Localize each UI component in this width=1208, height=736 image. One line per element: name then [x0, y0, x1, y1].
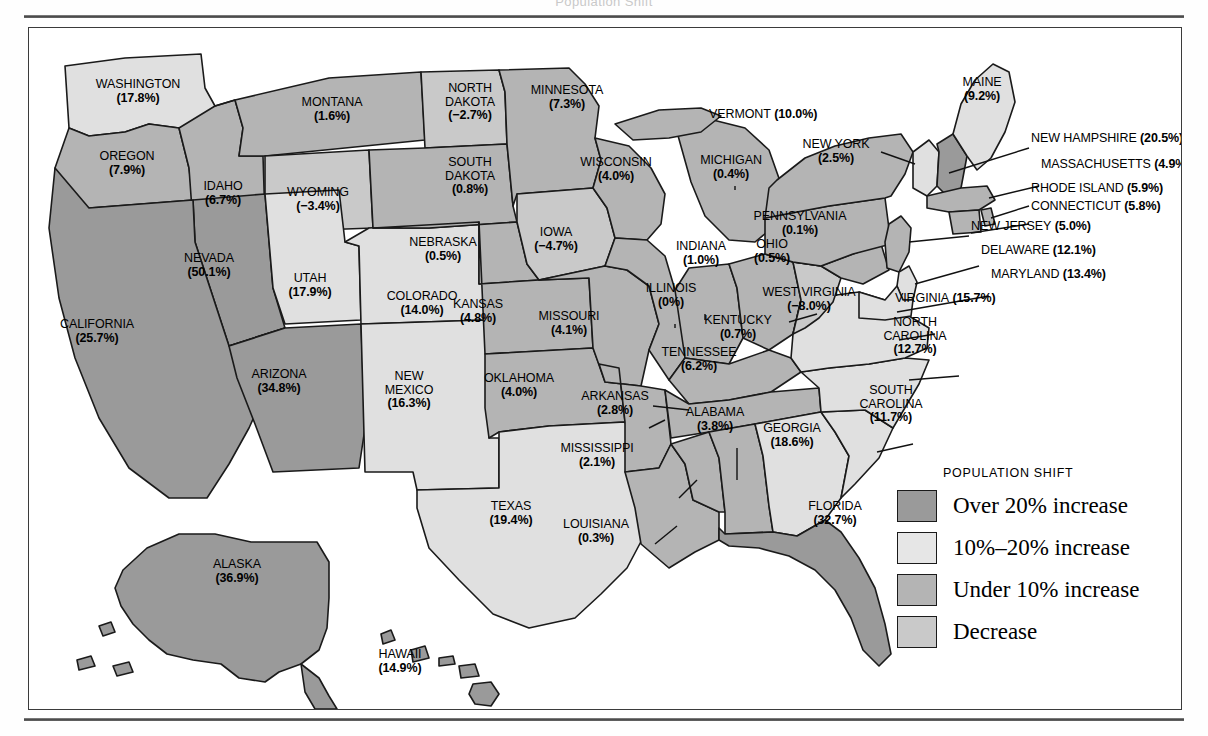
label-montana: MONTANA(1.6%) — [277, 96, 387, 123]
map-legend: POPULATION SHIFT Over 20% increase 10%–2… — [897, 466, 1139, 648]
label-alaska: ALASKA(36.9%) — [189, 558, 285, 585]
bottom-rule — [24, 718, 1184, 721]
label-louisiana: LOUISIANA(0.3%) — [541, 518, 651, 545]
legend-swatch-over20 — [897, 490, 937, 522]
legend-row-under10: Under 10% increase — [897, 574, 1139, 606]
label-florida: FLORIDA(32.7%) — [785, 500, 885, 527]
leader-new-jersey — [909, 236, 969, 242]
label-kansas: KANSAS(4.8%) — [429, 298, 527, 325]
label-arkansas: ARKANSAS(2.8%) — [559, 390, 671, 417]
legend-row-mid: 10%–20% increase — [897, 532, 1139, 564]
state-florida — [719, 520, 891, 666]
state-massachusetts — [927, 186, 995, 212]
leader-delaware — [915, 266, 979, 284]
clipped-figure-title: Population Shift — [0, 0, 1208, 10]
label-wyoming: WYOMING(−3.4%) — [259, 186, 377, 213]
label-washington: WASHINGTON(17.8%) — [73, 78, 203, 105]
legend-label-mid: 10%–20% increase — [953, 535, 1130, 561]
label-west-virginia: WEST VIRGINIA(−8.0%) — [745, 286, 873, 313]
label-wisconsin: WISCONSIN(4.0%) — [569, 156, 663, 183]
legend-label-over20: Over 20% increase — [953, 493, 1128, 519]
label-rhode-island: RHODE ISLAND (5.9%) — [1031, 182, 1163, 196]
top-rule — [24, 15, 1184, 18]
label-kentucky: KENTUCKY(0.7%) — [687, 314, 789, 341]
label-north-dakota: NORTH DAKOTA (−2.7%) — [427, 82, 513, 123]
figure-page: Population Shift .st{stroke:#1a1a1a;stro… — [0, 0, 1208, 736]
hawaii-kauai — [381, 630, 395, 644]
label-missouri: MISSOURI(4.1%) — [519, 310, 619, 337]
label-utah: UTAH(17.9%) — [271, 272, 349, 299]
label-delaware: DELAWARE (12.1%) — [981, 244, 1096, 258]
label-pennsylvania: PENNSYLVANIA(0.1%) — [735, 210, 865, 237]
state-arizona — [229, 324, 365, 472]
label-virginia: VIRGINIA (15.7%) — [895, 292, 996, 306]
legend-swatch-mid — [897, 532, 937, 564]
label-oregon: OREGON(7.9%) — [75, 150, 179, 177]
legend-swatch-decrease — [897, 616, 937, 648]
label-california: CALIFORNIA(25.7%) — [35, 318, 159, 345]
label-idaho: IDAHO(6.7%) — [185, 180, 261, 207]
map-frame: .st{stroke:#1a1a1a;stroke-width:1.6;stro… — [28, 27, 1182, 710]
label-new-jersey: NEW JERSEY (5.0%) — [971, 220, 1091, 234]
label-iowa: IOWA(−4.7%) — [515, 226, 597, 253]
legend-row-over20: Over 20% increase — [897, 490, 1139, 522]
alaska-panhandle — [301, 664, 337, 709]
hawaii-maui — [459, 664, 479, 678]
label-maine: MAINE(9.2%) — [941, 76, 1023, 103]
label-new-york: NEW YORK(2.5%) — [781, 138, 891, 165]
label-georgia: GEORGIA(18.6%) — [739, 422, 845, 449]
label-minnesota: MINNESOTA(7.3%) — [517, 84, 617, 111]
label-nebraska: NEBRASKA(0.5%) — [389, 236, 497, 263]
label-illinois: ILLINOIS(0%) — [629, 282, 713, 309]
label-tennessee: TENNESSEE(6.2%) — [639, 346, 759, 373]
alaska-island-2 — [77, 656, 95, 670]
label-new-hampshire: NEW HAMPSHIRE (20.5%) — [1031, 132, 1182, 146]
label-connecticut: CONNECTICUT (5.8%) — [1031, 200, 1160, 214]
label-south-carolina: SOUTH CAROLINA (11.7%) — [835, 384, 947, 425]
label-ohio: OHIO(0.5%) — [735, 238, 809, 265]
state-new-jersey — [885, 216, 911, 272]
label-maryland: MARYLAND (13.4%) — [991, 268, 1106, 282]
label-arizona: ARIZONA(34.8%) — [227, 368, 331, 395]
label-michigan: MICHIGAN(0.4%) — [683, 154, 779, 181]
legend-title: POPULATION SHIFT — [943, 466, 1139, 480]
label-new-mexico: NEW MEXICO (16.3%) — [365, 370, 453, 411]
legend-swatch-under10 — [897, 574, 937, 606]
hawaii-bigisland — [469, 682, 499, 706]
label-hawaii: HAWAII(14.9%) — [355, 648, 445, 675]
leader-rhode-island — [991, 206, 1029, 218]
label-vermont: VERMONT (10.0%) — [709, 108, 817, 122]
legend-row-decrease: Decrease — [897, 616, 1139, 648]
legend-label-decrease: Decrease — [953, 619, 1037, 645]
alaska-island-3 — [113, 662, 133, 676]
label-south-dakota: SOUTH DAKOTA (0.8%) — [427, 156, 513, 197]
legend-label-under10: Under 10% increase — [953, 577, 1139, 603]
label-nevada: NEVADA(50.1%) — [161, 252, 257, 279]
label-north-carolina: NORTH CAROLINA (12.7%) — [859, 316, 971, 357]
label-mississippi: MISSISSIPPI(2.1%) — [537, 442, 657, 469]
state-vermont — [913, 140, 939, 196]
alaska-island-1 — [99, 622, 115, 636]
label-massachusetts: MASSACHUSETTS (4.9%) — [1041, 158, 1182, 172]
